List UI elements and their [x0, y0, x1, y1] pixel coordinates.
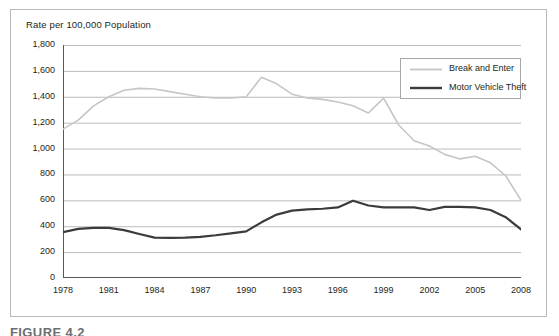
legend-row: Motor Vehicle Theft — [401, 78, 522, 98]
legend-swatch-break-and-enter — [410, 68, 442, 71]
legend-label-motor-vehicle-theft: Motor Vehicle Theft — [449, 82, 526, 92]
x-axis-tick-label: 1981 — [89, 285, 129, 295]
x-axis-tick-label: 1990 — [226, 285, 266, 295]
x-axis-tick-label: 1987 — [180, 285, 220, 295]
legend: Break and Enter Motor Vehicle Theft — [400, 58, 521, 99]
figure-root: Rate per 100,000 Population 020040060080… — [0, 0, 559, 336]
series-lines — [63, 77, 521, 238]
x-axis-tick-label: 1999 — [364, 285, 404, 295]
x-axis-tick-label: 2008 — [501, 285, 541, 295]
figure-caption: FIGURE 4.2 — [10, 325, 85, 336]
x-axis-tick-label: 1996 — [318, 285, 358, 295]
y-axis-tick-label: 1,800 — [7, 39, 55, 49]
y-axis-tick-label: 200 — [7, 246, 55, 256]
x-axis-tick-label: 1993 — [272, 285, 312, 295]
legend-swatch-motor-vehicle-theft — [410, 86, 442, 90]
y-axis-tick-label: 1,000 — [7, 143, 55, 153]
y-axis-tick-label: 400 — [7, 220, 55, 230]
series-line-motor-vehicle-theft — [63, 201, 521, 238]
y-axis-tick-label: 1,400 — [7, 91, 55, 101]
y-axis-tick-label: 1,200 — [7, 117, 55, 127]
x-axis-tick-label: 1984 — [135, 285, 175, 295]
legend-row: Break and Enter — [401, 59, 522, 79]
chart-title: Rate per 100,000 Population — [26, 19, 151, 30]
y-axis-tick-label: 600 — [7, 194, 55, 204]
y-axis-tick-label: 800 — [7, 168, 55, 178]
y-axis-tick-label: 0 — [7, 272, 55, 282]
x-axis-tick-label: 2002 — [409, 285, 449, 295]
y-axis-tick-label: 1,600 — [7, 65, 55, 75]
x-axis-tick-label: 1978 — [43, 285, 83, 295]
x-axis-tick-label: 2005 — [455, 285, 495, 295]
legend-label-break-and-enter: Break and Enter — [449, 63, 514, 73]
